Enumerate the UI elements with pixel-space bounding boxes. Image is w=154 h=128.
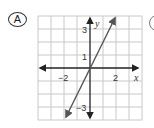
x-tick-2: 2: [113, 73, 118, 83]
x-axis-label: x: [133, 72, 139, 83]
coordinate-graph: −2 2 3 1 −3 x y: [0, 0, 154, 128]
y-tick-1: 1: [82, 52, 87, 62]
y-tick-neg3: −3: [76, 103, 86, 113]
x-tick-neg2: −2: [58, 73, 68, 83]
y-tick-3: 3: [82, 25, 87, 35]
y-axis-label: y: [94, 18, 100, 29]
